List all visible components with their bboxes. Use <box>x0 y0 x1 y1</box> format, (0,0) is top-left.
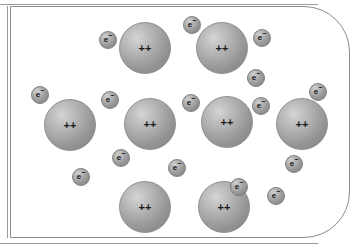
electron-charge-label: e− <box>187 99 196 107</box>
electron-14: e− <box>285 155 303 173</box>
electron-charge-label: e− <box>77 173 86 181</box>
electron-12: e− <box>168 159 186 177</box>
electron-2: e− <box>183 16 201 34</box>
electron-3: e− <box>253 29 271 47</box>
electron-1: e− <box>99 31 117 49</box>
electron-charge-label: e− <box>104 36 113 44</box>
frame-bottom-edge <box>0 243 318 244</box>
ion-charge-label: ++ <box>139 43 152 54</box>
electron-charge-label: e− <box>117 154 126 162</box>
ion-3: ++ <box>44 99 96 151</box>
ion-charge-label: ++ <box>296 119 309 130</box>
ion-charge-label: ++ <box>139 202 152 213</box>
electron-charge-label: e− <box>258 34 267 42</box>
ion-7: ++ <box>119 181 171 233</box>
electron-charge-label: e− <box>173 164 182 172</box>
electron-7: e− <box>182 94 200 112</box>
electron-charge-label: e− <box>272 192 281 200</box>
ion-5: ++ <box>201 96 253 148</box>
ion-4: ++ <box>124 98 176 150</box>
ion-charge-label: ++ <box>216 43 229 54</box>
electron-charge-label: e− <box>188 21 197 29</box>
ion-2: ++ <box>196 22 248 74</box>
ion-1: ++ <box>119 22 171 74</box>
electron-10: e− <box>112 149 130 167</box>
electron-15: e− <box>267 187 285 205</box>
frame-left-edge <box>7 6 8 238</box>
electron-charge-label: e− <box>252 74 261 82</box>
electron-5: e− <box>31 86 49 104</box>
electron-charge-label: e− <box>106 96 115 104</box>
electron-charge-label: e− <box>257 102 266 110</box>
electron-charge-label: e− <box>36 91 45 99</box>
ion-charge-label: ++ <box>64 120 77 131</box>
frame-top-edge <box>0 4 318 5</box>
electron-charge-label: e− <box>314 88 323 96</box>
ion-charge-label: ++ <box>221 117 234 128</box>
electron-4: e− <box>247 69 265 87</box>
electron-11: e− <box>72 168 90 186</box>
electron-charge-label: e− <box>235 183 244 191</box>
electron-13: e− <box>230 178 248 196</box>
electron-charge-label: e− <box>290 160 299 168</box>
ion-6: ++ <box>276 98 328 150</box>
metal-lattice-figure: ++++++++++++++++e−e−e−e−e−e−e−e−e−e−e−e−… <box>0 0 356 249</box>
electron-6: e− <box>101 91 119 109</box>
electron-8: e− <box>252 97 270 115</box>
electron-9: e− <box>309 83 327 101</box>
ion-charge-label: ++ <box>218 202 231 213</box>
ion-charge-label: ++ <box>144 119 157 130</box>
